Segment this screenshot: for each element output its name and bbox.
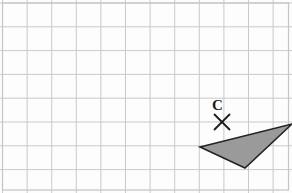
centre-of-rotation-cross-icon [214,114,230,130]
figure-layer [0,0,292,193]
shaded-triangle [200,124,292,168]
point-label-c: C [212,98,223,113]
worksheet-canvas: C [0,0,292,193]
